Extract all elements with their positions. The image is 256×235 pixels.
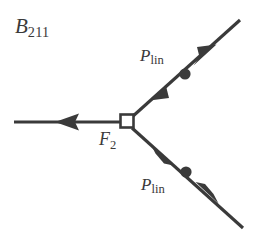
lower-load-dot-icon [180,166,191,177]
lower-outward-arrowhead-icon [196,182,219,204]
joint-square-icon [121,115,134,128]
diagram-title-base: B [15,14,28,38]
joint-force-label: F2 [99,130,117,148]
diagram-title-subscript: 211 [28,24,49,40]
joint-force-base: F [99,129,110,149]
upper-load-dot-icon [179,68,190,79]
upper-load-subscript: lin [150,53,163,67]
lower-load-subscript: lin [151,182,164,196]
horizontal-member-group [14,114,121,131]
lower-load-label: Plin [141,176,165,193]
upper-load-label: Plin [140,47,164,64]
diagram-title-label: B211 [15,16,49,37]
joint-force-subscript: 2 [110,138,117,152]
upper-member-group [132,20,240,117]
upper-outward-arrowhead-icon [194,45,217,66]
upper-load-base: P [140,46,150,65]
lower-load-base: P [141,175,151,194]
